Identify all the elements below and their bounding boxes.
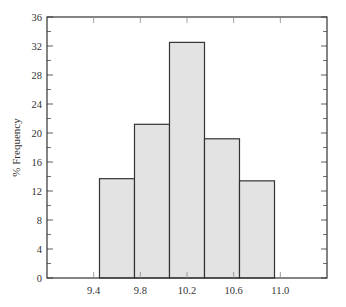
y-tick-label: 4	[37, 244, 43, 255]
y-tick-label: 8	[37, 215, 42, 226]
x-tick-label: 9.4	[87, 285, 101, 296]
histogram-bar	[240, 181, 275, 278]
y-tick-label: 24	[32, 99, 43, 110]
y-axis-label: % Frequency	[10, 118, 22, 177]
histogram-bar	[135, 124, 170, 278]
y-tick-label: 0	[37, 273, 42, 284]
histogram-bar	[170, 42, 205, 278]
x-tick-label: 9.8	[134, 285, 147, 296]
y-tick-label: 12	[32, 186, 43, 197]
x-tick-label: 10.6	[224, 285, 242, 296]
histogram-bar	[205, 139, 240, 278]
y-tick-label: 20	[32, 128, 43, 139]
histogram-chart: 04812162024283236 9.49.810.210.611.0 % F…	[0, 0, 346, 307]
y-tick-label: 28	[32, 70, 43, 81]
x-tick-label: 10.2	[178, 285, 196, 296]
histogram-bars	[100, 42, 275, 278]
y-tick-label: 32	[32, 41, 43, 52]
x-tick-label: 11.0	[271, 285, 289, 296]
y-tick-label: 36	[32, 12, 43, 23]
y-tick-label: 16	[32, 157, 43, 168]
histogram-bar	[100, 179, 135, 278]
